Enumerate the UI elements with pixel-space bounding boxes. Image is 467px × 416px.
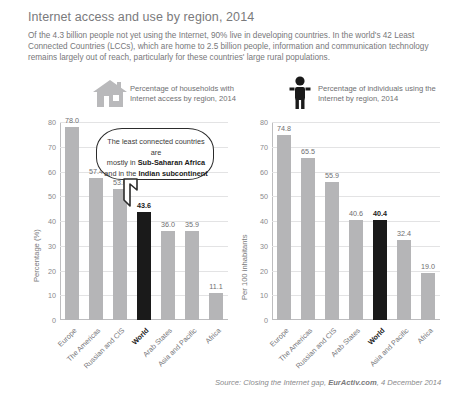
person-icon — [288, 76, 312, 110]
bar: 57.4 — [89, 178, 104, 320]
bar-value-label: 65.5 — [301, 147, 315, 156]
source-publisher: EurActiv.com — [328, 378, 377, 387]
gridline — [272, 196, 440, 197]
y-tick-label: 50 — [260, 192, 268, 201]
category-label: Africa — [415, 326, 434, 345]
bar-value-label: 32.4 — [397, 229, 411, 238]
bar-value-label: 55.9 — [325, 171, 339, 180]
callout-tail — [123, 178, 139, 208]
callout-line-2-bold: Sub-Saharan Africa — [138, 158, 205, 167]
bar-value-label: 35.9 — [185, 220, 199, 229]
y-tick-label: 80 — [260, 118, 268, 127]
bar: 35.9 — [185, 231, 200, 320]
gridline — [60, 122, 228, 123]
bar: 36.0 — [161, 231, 176, 320]
page-title: Internet access and use by region, 2014 — [28, 10, 254, 24]
callout-line-3-prefix: and in the — [104, 169, 138, 178]
right-panel-heading: Percentage of individuals using the Inte… — [318, 84, 443, 103]
bar-value-label: 78.0 — [65, 116, 79, 125]
y-tick-label: 30 — [260, 241, 268, 250]
source-note: Source: Closing the Internet gap, EurAct… — [215, 378, 441, 387]
intro-paragraph: Of the 4.3 billion people not yet using … — [28, 30, 448, 63]
chart-individuals: Per 100 inhabitants 0102030405060708074.… — [240, 122, 445, 347]
y-tick-label: 70 — [48, 142, 56, 151]
bar: 74.8 — [277, 135, 292, 320]
y-tick-label: 70 — [260, 142, 268, 151]
bar: 19.0 — [421, 273, 436, 320]
bar-value-label: 11.1 — [209, 282, 222, 291]
callout-line-1: The least connected countries are — [107, 137, 204, 157]
y-tick-label: 20 — [260, 266, 268, 275]
callout-bubble: The least connected countries are mostly… — [96, 128, 214, 180]
y-tick-label: 0 — [264, 316, 268, 325]
bar: 65.5 — [301, 158, 316, 320]
bar: 53.0 — [113, 189, 128, 320]
y-tick-label: 0 — [52, 316, 56, 325]
y-tick-label: 80 — [48, 118, 56, 127]
bar: 11.1 — [209, 293, 224, 320]
callout-text: The least connected countries are mostly… — [104, 137, 208, 179]
bar: 55.9 — [325, 182, 340, 320]
y-tick-label: 40 — [48, 217, 56, 226]
bar: 40.6 — [349, 220, 364, 320]
left-y-axis-title: Percentage (%) — [32, 229, 41, 282]
y-tick-label: 60 — [48, 167, 56, 176]
bar: 43.6 — [137, 212, 152, 320]
y-tick-label: 20 — [48, 266, 56, 275]
y-tick-label: 10 — [260, 291, 268, 300]
left-panel-heading: Percentage of households with Internet a… — [130, 84, 255, 103]
bar-value-label: 43.6 — [137, 201, 151, 210]
y-tick-label: 40 — [260, 217, 268, 226]
gridline — [60, 196, 228, 197]
house-icon — [92, 78, 128, 108]
infographic-page: Internet access and use by region, 2014 … — [0, 0, 467, 416]
source-prefix: Source: Closing the Internet gap, — [215, 378, 328, 387]
bar-value-label: 74.8 — [277, 124, 291, 133]
y-tick-label: 30 — [48, 241, 56, 250]
bar-value-label: 36.0 — [161, 220, 175, 229]
y-tick-label: 60 — [260, 167, 268, 176]
bar: 40.4 — [373, 220, 388, 320]
callout-line-2-prefix: mostly in — [107, 158, 138, 167]
bar-value-label: 40.4 — [373, 209, 387, 218]
category-label: World — [130, 326, 151, 347]
callout-line-3-bold: Indian subcontinent — [138, 169, 207, 178]
bar-value-label: 40.6 — [349, 209, 363, 218]
source-suffix: , 4 December 2014 — [377, 378, 442, 387]
right-y-axis-title: Per 100 inhabitants — [240, 235, 249, 300]
gridline — [272, 147, 440, 148]
bar: 32.4 — [397, 240, 412, 320]
category-label: Africa — [203, 326, 222, 345]
bar: 78.0 — [65, 127, 80, 320]
y-tick-label: 10 — [48, 291, 56, 300]
gridline — [272, 172, 440, 173]
right-plot-area: 0102030405060708074.8Europe65.5The Ameri… — [272, 122, 440, 320]
gridline — [272, 122, 440, 123]
bar-value-label: 19.0 — [421, 262, 435, 271]
y-tick-label: 50 — [48, 192, 56, 201]
category-label: World — [366, 326, 387, 347]
